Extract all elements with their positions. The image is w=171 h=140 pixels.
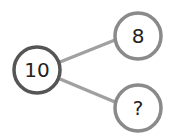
connector-top [60,40,115,62]
part-label-top: 8 [116,24,160,48]
whole-label: 10 [15,58,59,82]
part-label-bottom: ? [116,96,160,120]
connector-bottom [60,79,115,102]
